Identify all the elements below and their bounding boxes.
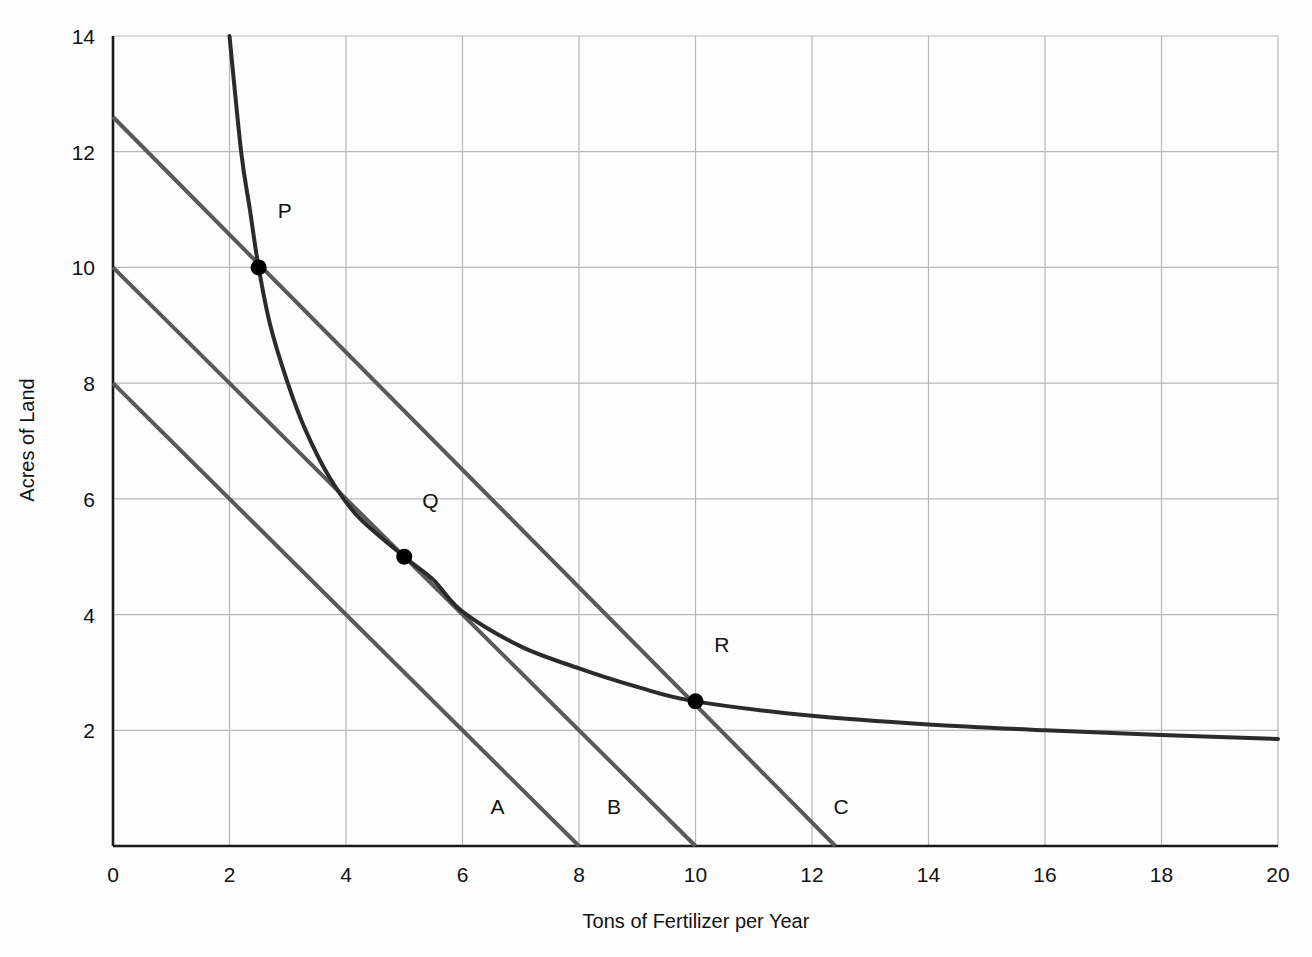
- x-tick-label: 8: [573, 863, 585, 886]
- isocost-label-A: A: [490, 795, 504, 818]
- y-tick-label: 14: [72, 25, 96, 48]
- x-tick-label: 14: [917, 863, 941, 886]
- plot-background: [0, 0, 1312, 957]
- x-tick-label: 2: [224, 863, 236, 886]
- point-label-Q: Q: [422, 489, 438, 512]
- x-tick-label: 16: [1033, 863, 1056, 886]
- x-tick-label: 10: [684, 863, 707, 886]
- isocost-label-B: B: [607, 795, 621, 818]
- x-tick-label: 18: [1150, 863, 1173, 886]
- isocost-label-C: C: [834, 795, 849, 818]
- data-point-P: [251, 259, 267, 275]
- y-tick-label: 12: [72, 141, 95, 164]
- y-axis-title: Acres of Land: [16, 378, 38, 501]
- y-tick-label: 4: [83, 604, 95, 627]
- y-tick-label: 2: [83, 719, 95, 742]
- x-tick-label: 0: [107, 863, 119, 886]
- point-label-R: R: [714, 633, 729, 656]
- x-axis-title: Tons of Fertilizer per Year: [583, 910, 810, 932]
- y-tick-label: 6: [83, 488, 95, 511]
- x-tick-label: 4: [340, 863, 352, 886]
- x-tick-label: 20: [1266, 863, 1289, 886]
- data-point-R: [688, 693, 704, 709]
- x-tick-label: 12: [800, 863, 823, 886]
- isoquant-isocost-chart: 024681012141618202468101214 ABCPQR Tons …: [0, 0, 1312, 957]
- x-tick-label: 6: [457, 863, 469, 886]
- y-tick-label: 8: [83, 372, 95, 395]
- data-point-Q: [396, 549, 412, 565]
- y-tick-label: 10: [72, 256, 95, 279]
- point-label-P: P: [278, 199, 292, 222]
- chart-canvas: 024681012141618202468101214 ABCPQR Tons …: [0, 0, 1312, 957]
